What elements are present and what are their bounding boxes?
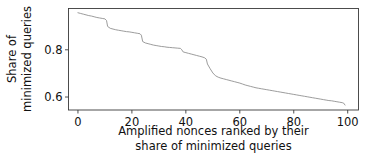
line-chart: 0 20 40 60 80 100 0.6 0.8 Amplified nonc… xyxy=(0,0,379,158)
data-series-line xyxy=(78,13,345,105)
chart-figure: 0 20 40 60 80 100 0.6 0.8 Amplified nonc… xyxy=(0,0,379,158)
x-axis-label: Amplified nonces ranked by their share o… xyxy=(118,124,309,153)
y-tick-label-0: 0.6 xyxy=(44,90,62,104)
y-axis-ticks xyxy=(65,50,69,97)
x-tick-label-5: 100 xyxy=(337,115,359,129)
y-axis-label: Share of minimized queries xyxy=(5,6,34,112)
y-axis-label-line1: Share of xyxy=(5,34,19,83)
y-axis-tick-labels: 0.6 0.8 xyxy=(44,43,62,104)
plot-frame xyxy=(69,9,359,111)
x-axis-label-line1: Amplified nonces ranked by their xyxy=(118,124,309,138)
y-tick-label-1: 0.8 xyxy=(44,43,62,57)
x-axis-ticks xyxy=(78,110,348,114)
x-tick-label-0: 0 xyxy=(74,115,81,129)
x-axis-label-line2: share of minimized queries xyxy=(135,139,291,153)
y-axis-label-line2: minimized queries xyxy=(20,6,34,112)
